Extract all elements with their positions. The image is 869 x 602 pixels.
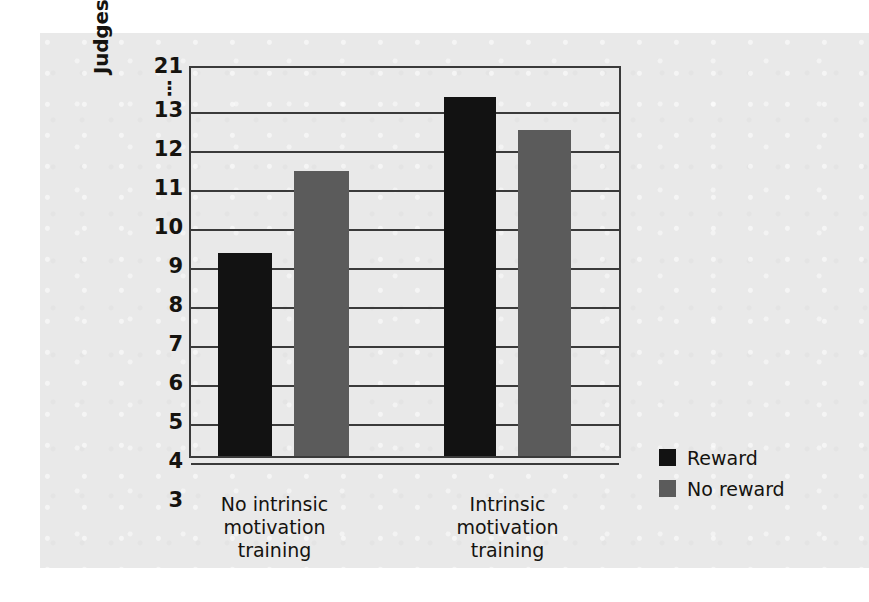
y-tick-8: 8 — [139, 294, 183, 316]
y-tick-10: 10 — [139, 216, 183, 238]
x-label-line-3: training — [192, 539, 357, 562]
bar-no-training-no-reward — [294, 171, 349, 456]
legend-swatch-reward-icon — [659, 449, 676, 466]
x-label-line-1: Intrinsic — [425, 493, 590, 516]
plot-area — [189, 66, 621, 458]
chart-figure: Judges' ratings of stories' creativity 2… — [0, 0, 869, 602]
legend-label-reward: Reward — [687, 447, 758, 469]
x-label-line-1: No intrinsic — [192, 493, 357, 516]
y-tick-21: 21 — [139, 55, 183, 77]
bar-training-reward — [444, 97, 496, 456]
x-axis-group-label-no-training: No intrinsic motivation training — [192, 493, 357, 562]
y-axis-break-ellipsis: ⋮ — [139, 82, 179, 94]
legend-item-no-reward: No reward — [659, 473, 785, 504]
bar-training-no-reward — [518, 130, 571, 456]
x-label-line-2: motivation — [192, 516, 357, 539]
y-tick-9: 9 — [139, 255, 183, 277]
bar-no-training-reward — [218, 253, 272, 456]
y-axis-title: Judges' ratings of stories' creativity — [88, 0, 114, 81]
y-tick-5: 5 — [139, 411, 183, 433]
legend-label-no-reward: No reward — [687, 478, 785, 500]
x-axis-group-label-training: Intrinsic motivation training — [425, 493, 590, 562]
chart-legend: Reward No reward — [659, 442, 785, 504]
y-tick-3: 3 — [139, 489, 183, 511]
x-label-line-2: motivation — [425, 516, 590, 539]
y-tick-12: 12 — [139, 138, 183, 160]
y-tick-6: 6 — [139, 372, 183, 394]
gridline-13 — [191, 112, 619, 114]
y-tick-11: 11 — [139, 177, 183, 199]
y-tick-4: 4 — [139, 450, 183, 472]
legend-swatch-no-reward-icon — [659, 480, 676, 497]
y-tick-13: 13 — [139, 99, 183, 121]
y-axis-tick-labels: 21 ⋮ 13 12 11 10 9 8 7 6 5 4 3 — [133, 0, 183, 602]
gridline-4 — [191, 463, 619, 465]
legend-item-reward: Reward — [659, 442, 785, 473]
x-label-line-3: training — [425, 539, 590, 562]
y-tick-7: 7 — [139, 333, 183, 355]
